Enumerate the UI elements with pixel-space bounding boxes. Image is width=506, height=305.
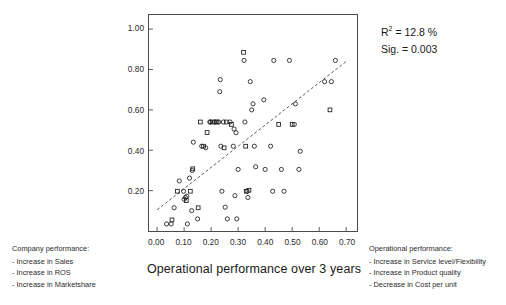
data-point	[164, 222, 168, 226]
data-point	[293, 102, 297, 106]
r-squared-symbol: R	[381, 26, 389, 38]
data-point	[243, 120, 247, 124]
y-tick-label: 0.20	[110, 186, 144, 196]
scatter-plot-figure: Company performance over 3 years 0.200.4…	[0, 0, 506, 305]
data-point	[223, 205, 227, 209]
data-point	[235, 217, 239, 221]
data-point	[196, 206, 200, 210]
y-tick-label: 0.60	[110, 105, 144, 115]
legend-operational-item-1: - Increase in Product quality	[369, 267, 486, 279]
significance-annotation: Sig. = 0.003	[381, 41, 437, 58]
data-point	[262, 98, 266, 102]
data-point	[218, 90, 222, 94]
data-point	[254, 165, 258, 169]
data-point	[187, 176, 191, 180]
data-point	[333, 58, 337, 62]
data-point	[172, 206, 176, 210]
legend-company-item-2: - Increase in Marketshare	[12, 279, 96, 291]
data-point	[252, 144, 256, 148]
data-point	[185, 222, 189, 226]
legend-operational-title: Operational performance:	[369, 243, 486, 255]
legend-company-title: Company performance:	[12, 243, 96, 255]
legend-operational-item-2: - Decrease in Cost per unit	[369, 279, 486, 291]
data-point	[228, 120, 232, 124]
legend-company-item-0: - Increase in Sales	[12, 256, 96, 268]
x-tick-label: 0.70	[330, 237, 364, 247]
y-tick-label: 0.80	[110, 64, 144, 74]
data-point	[250, 108, 254, 112]
x-axis-title: Operational performance over 3 years	[134, 262, 374, 276]
data-point	[231, 144, 235, 148]
data-point	[236, 167, 240, 171]
data-point	[271, 189, 275, 193]
data-point	[263, 167, 267, 171]
data-point	[251, 102, 255, 106]
y-tick-label: 0.40	[110, 146, 144, 156]
data-point	[177, 179, 181, 183]
data-point	[242, 50, 246, 54]
data-point	[169, 222, 173, 226]
data-point	[242, 58, 246, 62]
data-point	[328, 108, 332, 112]
x-axis-tick-labels: 0.000.100.200.300.400.500.600.70	[148, 237, 358, 251]
plot-canvas	[149, 15, 357, 231]
data-point	[272, 58, 276, 62]
data-point	[196, 217, 200, 221]
data-point	[191, 140, 195, 144]
legend-company-item-1: - Increase in ROS	[12, 267, 96, 279]
data-point	[246, 195, 250, 199]
data-point	[268, 144, 272, 148]
data-point	[181, 189, 185, 193]
legend-operational-performance: Operational performance: - Increase in S…	[369, 243, 486, 290]
data-point	[188, 189, 192, 193]
r-squared-annotation: R2 = 12.8 %	[381, 20, 437, 41]
data-point	[297, 167, 301, 171]
plot-area	[148, 14, 358, 232]
data-point	[198, 120, 202, 124]
data-point	[277, 123, 281, 127]
data-point	[244, 144, 248, 148]
data-point	[282, 189, 286, 193]
data-point	[323, 80, 327, 84]
data-point	[225, 217, 229, 221]
data-point	[329, 80, 333, 84]
data-point	[298, 149, 302, 153]
data-point	[205, 131, 209, 135]
data-point	[233, 194, 237, 198]
data-point	[287, 58, 291, 62]
y-axis-tick-labels: 0.200.400.600.801.00	[108, 14, 144, 232]
data-point	[279, 167, 283, 171]
data-point	[218, 78, 222, 82]
y-tick-label: 1.00	[110, 23, 144, 33]
legend-company-performance: Company performance: - Increase in Sales…	[12, 243, 96, 290]
data-point	[190, 209, 194, 213]
statistics-annotation: R2 = 12.8 % Sig. = 0.003	[381, 20, 437, 58]
r-squared-value: = 12.8 %	[393, 26, 438, 38]
data-point	[248, 80, 252, 84]
legend-operational-item-0: - Increase in Service level/Flexibility	[369, 256, 486, 268]
data-point	[234, 131, 238, 135]
data-point	[170, 218, 174, 222]
data-point	[220, 189, 224, 193]
